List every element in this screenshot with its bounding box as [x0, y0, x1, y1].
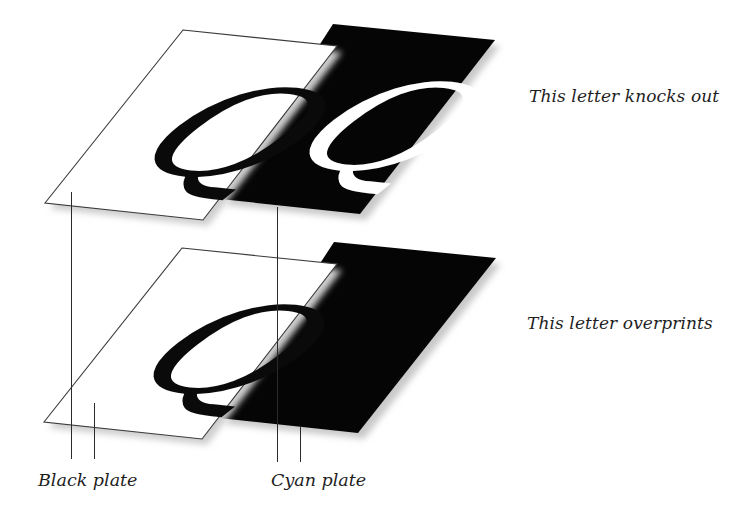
knockout-row: Q Q: [45, 24, 529, 226]
knockout-overprint-diagram: Q Q Q: [0, 0, 753, 518]
black-plate-label: Black plate: [38, 472, 137, 490]
knockout-caption: This letter knocks out: [529, 88, 719, 105]
overprint-caption: This letter overprints: [527, 315, 713, 332]
cyan-plate-label: Cyan plate: [271, 472, 366, 490]
overprint-row: Q: [44, 242, 501, 445]
